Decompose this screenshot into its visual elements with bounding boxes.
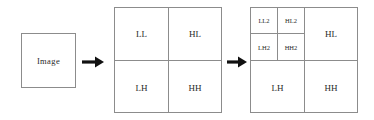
subband-label-hl: HL [189,29,201,39]
subband-label-lh: LH [136,83,148,93]
subband-cell-hl: HL [305,8,357,60]
subband-cell-lh: LH [251,61,304,114]
subband-cell-hl2: HL2 [278,8,304,33]
wavelet-decomposition-diagram: Image LL HL LH HH LL2 [0,0,374,120]
subband-label-lh: LH [272,83,284,93]
subband-cell-ll2: LL2 [251,8,277,33]
subband-label-hl: HL [325,29,337,39]
source-image-label: Image [22,34,75,87]
subband-label-hh: HH [189,83,202,93]
subband-cell-hl: HL [169,8,221,60]
subband-cell-ll: LL [115,8,168,60]
subband-label-hh2: HH2 [285,44,298,51]
subband-cell-hh2: HH2 [278,34,304,60]
right-arrow-icon [226,55,248,69]
subband-cell-hh: HH [169,61,221,114]
subband-cell-lh2: LH2 [251,34,277,60]
first-level-subband-grid: LL HL LH HH [114,7,222,113]
subband-label-hl2: HL2 [285,17,297,24]
subband-cell-lh: LH [115,61,168,114]
subband-label-ll: LL [136,29,147,39]
right-arrow-icon [81,55,105,69]
subband-label-lh2: LH2 [258,44,270,51]
subband-label-ll2: LL2 [258,17,269,24]
second-level-subband-grid: LL2 HL2 LH2 HH2 HL LH HH [250,7,358,113]
subband-cell-hh: HH [305,61,357,114]
source-image-box: Image [21,33,76,88]
subband-label-hh: HH [325,83,338,93]
